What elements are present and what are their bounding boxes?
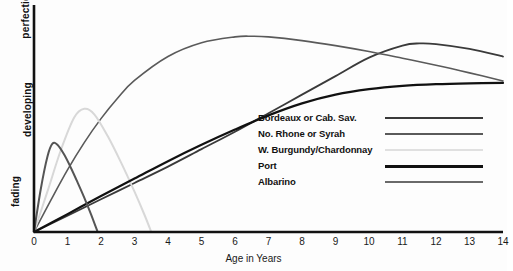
x-tick-label: 11	[393, 236, 413, 247]
y-axis-label-perfection: perfection	[0, 8, 22, 68]
x-tick-label: 0	[24, 236, 44, 247]
x-tick-label: 4	[158, 236, 178, 247]
legend-item-label: Albarino	[258, 176, 296, 187]
x-axis-title: Age in Years	[0, 253, 507, 264]
legend-color-swatch	[385, 149, 483, 151]
x-tick-label: 13	[460, 236, 480, 247]
legend-item-label: W. Burgundy/Chardonnay	[258, 144, 372, 155]
x-tick-label: 10	[359, 236, 379, 247]
x-tick-label: 7	[259, 236, 279, 247]
series-line	[34, 109, 151, 232]
x-tick-label: 6	[225, 236, 245, 247]
legend-item[interactable]: W. Burgundy/Chardonnay	[258, 144, 498, 160]
legend-color-swatch	[385, 181, 483, 183]
x-tick-label: 8	[292, 236, 312, 247]
legend-item-label: No. Rhone or Syrah	[258, 128, 345, 139]
x-tick-label: 5	[192, 236, 212, 247]
x-tick-label: 1	[58, 236, 78, 247]
legend-item-label: Port	[258, 160, 277, 171]
x-tick-label: 3	[125, 236, 145, 247]
x-tick-label: 2	[91, 236, 111, 247]
legend-item[interactable]: Albarino	[258, 176, 498, 192]
y-axis-label-perfection-text: perfection	[20, 0, 31, 39]
chart-legend: Bordeaux or Cab. Sav.No. Rhone or SyrahW…	[258, 112, 498, 192]
y-axis-label-developing-text: developing	[22, 82, 33, 137]
y-axis-label-fading: fading	[0, 186, 22, 228]
legend-item[interactable]: Port	[258, 160, 498, 176]
legend-color-swatch	[385, 165, 483, 168]
legend-color-swatch	[385, 133, 483, 135]
x-tick-label: 14	[493, 236, 513, 247]
x-tick-label: 9	[326, 236, 346, 247]
x-tick-label: 12	[426, 236, 446, 247]
y-axis-label-developing: developing	[0, 104, 22, 166]
legend-item[interactable]: Bordeaux or Cab. Sav.	[258, 112, 498, 128]
legend-item[interactable]: No. Rhone or Syrah	[258, 128, 498, 144]
series-line	[34, 143, 98, 232]
y-axis-label-fading-text: fading	[10, 176, 21, 207]
legend-color-swatch	[385, 117, 483, 119]
legend-item-label: Bordeaux or Cab. Sav.	[258, 112, 357, 123]
